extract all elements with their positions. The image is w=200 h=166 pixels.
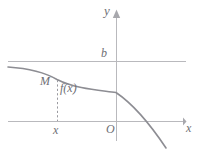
x-tick-label: x: [53, 124, 58, 136]
y-axis-arrowhead: [113, 10, 120, 19]
graph-canvas: [0, 0, 200, 166]
function-curve: [8, 67, 166, 148]
point-m-label: M: [40, 75, 50, 87]
x-axis-label: x: [186, 122, 191, 134]
function-label: f(x): [60, 82, 77, 94]
y-axis-label: y: [104, 4, 110, 17]
origin-label: O: [106, 123, 115, 135]
asymptote-label: b: [101, 47, 107, 59]
function-graph-figure: y b M f(x) x O x: [0, 0, 200, 166]
